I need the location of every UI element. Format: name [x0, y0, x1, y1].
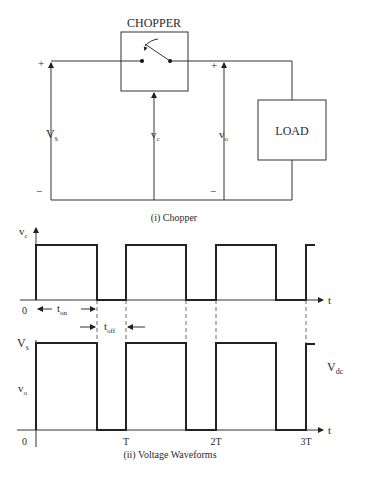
- vo-level-label: Vs: [17, 336, 29, 352]
- load-label: LOAD: [275, 124, 309, 138]
- source-plus: +: [38, 57, 44, 69]
- switch-contact-left: [140, 59, 144, 63]
- circuit-caption: (i) Chopper: [151, 212, 198, 224]
- vo-t-label: t: [328, 424, 331, 436]
- vc-t-label: t: [328, 294, 331, 306]
- vc-axis-label: vc: [19, 225, 28, 240]
- switch-blade: [145, 44, 170, 61]
- output-waveform: Vs vo t 0 T 2T 3T Vdc (ii) Voltage Wavef…: [17, 336, 344, 461]
- projection-lines: [97, 300, 306, 343]
- vo-pulse-train: [36, 343, 315, 430]
- circuit-diagram: CHOPPER + − Vs vc + − vo LOAD: [36, 16, 326, 224]
- vdc-label: Vdc: [327, 360, 344, 376]
- chopper-figure: CHOPPER + − Vs vc + − vo LOAD: [0, 0, 366, 480]
- timing-annotations: ton toff: [38, 302, 145, 335]
- tick-2T: 2T: [210, 436, 221, 447]
- output-voltage-label: vo: [219, 128, 229, 143]
- control-voltage-label: vc: [151, 128, 160, 143]
- waveforms-caption: (ii) Voltage Waveforms: [123, 449, 216, 461]
- tick-3T: 3T: [300, 436, 311, 447]
- output-minus: −: [210, 185, 216, 197]
- tick-T: T: [123, 436, 129, 447]
- source-voltage-label: Vs: [46, 127, 58, 143]
- chopper-label: CHOPPER: [127, 16, 181, 30]
- t-on-label: ton: [57, 302, 68, 317]
- vo-axis-label: vo: [18, 382, 28, 397]
- output-plus: +: [211, 59, 217, 71]
- vo-origin-label: 0: [22, 436, 27, 447]
- source-minus: −: [36, 185, 42, 197]
- t-off-label: toff: [104, 320, 116, 335]
- vc-origin-label: 0: [22, 305, 27, 316]
- vc-pulse-train: [36, 245, 315, 300]
- control-waveform: vc t 0: [19, 225, 331, 316]
